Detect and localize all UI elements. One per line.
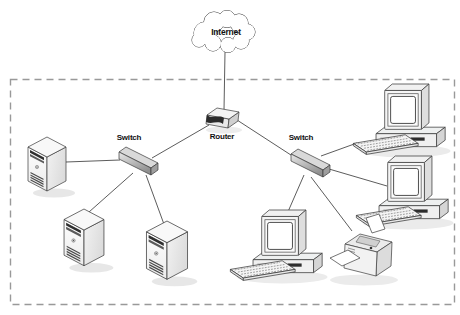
- network-diagram: Internet Router Switch Switch: [0, 0, 460, 315]
- switch-right-label: Switch: [289, 133, 314, 142]
- diagram-canvas: Internet Router Switch Switch: [0, 0, 460, 315]
- link-switch-workstation1: [321, 143, 357, 156]
- server-2: [64, 209, 113, 273]
- printer-shadow: [330, 275, 398, 286]
- link-switch-server3: [146, 175, 165, 227]
- link-switch-workstation2: [329, 169, 387, 186]
- link-switch-printer: [311, 177, 352, 231]
- link-internet-router: [224, 52, 225, 110]
- link-switch-server2: [89, 173, 133, 212]
- switch-left-label: Switch: [117, 133, 142, 142]
- link-router-switch-right: [237, 120, 294, 157]
- workstation-3: [230, 210, 327, 283]
- server-3: [146, 221, 197, 286]
- switch-left: Switch: [117, 133, 158, 175]
- link-switch-server1: [66, 160, 120, 162]
- router-label: Router: [210, 132, 235, 141]
- workstation-1: [353, 84, 450, 157]
- router: Router: [206, 108, 242, 141]
- server-1: [28, 137, 75, 198]
- internet-label: Internet: [211, 27, 241, 37]
- link-router-switch-left: [152, 125, 209, 158]
- link-switch-workstation3: [287, 175, 304, 214]
- printer-button: [370, 247, 373, 250]
- internet-cloud: Internet: [192, 11, 255, 53]
